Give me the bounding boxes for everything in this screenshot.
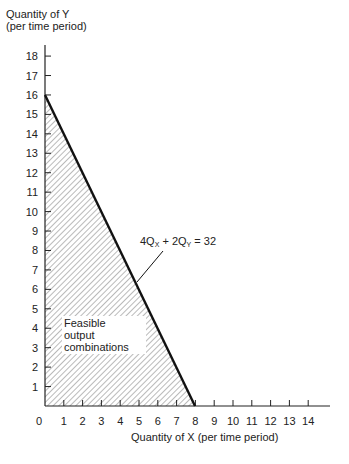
y-tick-label: 18 [26, 50, 38, 62]
x-axis-title: Quantity of X (per time period) [131, 431, 278, 443]
y-tick-label: 12 [26, 167, 38, 179]
y-tick-label: 16 [26, 89, 38, 101]
feasible-region-label: Feasible output combinations [62, 316, 146, 354]
y-tick-label: 9 [32, 225, 38, 237]
y-tick-label: 1 [32, 381, 38, 393]
y-tick-label: 2 [32, 361, 38, 373]
y-tick-label: 11 [27, 186, 38, 198]
x-tick-label: 6 [155, 415, 161, 427]
chart-canvas: 123456789101112131415161718 123456789101… [0, 0, 349, 464]
equation-label: 4QX + 2QY = 32 [140, 235, 216, 248]
y-tick-label: 6 [32, 283, 38, 295]
x-tick-label: 13 [283, 415, 295, 427]
x-tick-label: 12 [264, 415, 276, 427]
x-tick-label: 9 [211, 415, 217, 427]
y-tick-label: 15 [26, 108, 38, 120]
x-tick-label: 1 [61, 415, 67, 427]
x-tick-label: 5 [136, 415, 142, 427]
x-tick-label: 7 [174, 415, 180, 427]
x-tick-label: 2 [80, 415, 86, 427]
x-tick-label: 3 [98, 415, 104, 427]
origin-label: 0 [36, 415, 42, 427]
y-tick-label: 14 [26, 128, 38, 140]
x-tick-label: 8 [192, 415, 198, 427]
x-tick-label: 14 [302, 415, 314, 427]
annotation-pointer [137, 251, 163, 282]
x-tick-label: 10 [227, 415, 239, 427]
x-tick-label: 11 [246, 415, 257, 427]
y-tick-label: 10 [26, 206, 38, 218]
y-tick-label: 4 [32, 322, 38, 334]
y-axis-title-line2: (per time period) [6, 20, 87, 32]
y-axis-title-line1: Quantity of Y [6, 8, 87, 20]
y-tick-label: 3 [32, 342, 38, 354]
y-tick-label: 17 [26, 70, 38, 82]
y-tick-label: 13 [26, 147, 38, 159]
y-axis-title: Quantity of Y (per time period) [6, 8, 87, 32]
feasible-label-line1: Feasible [64, 317, 144, 329]
x-tick-label: 4 [117, 415, 123, 427]
y-tick-label: 8 [32, 244, 38, 256]
y-tick-label: 7 [32, 264, 38, 276]
feasible-label-line2: output [64, 329, 144, 341]
feasible-label-line3: combinations [64, 341, 144, 353]
y-tick-label: 5 [32, 303, 38, 315]
